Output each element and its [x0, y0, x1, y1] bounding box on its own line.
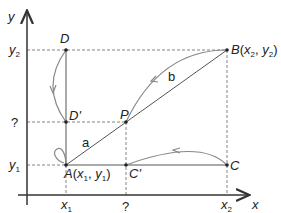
- point-B-label: B(x2, y2): [231, 43, 278, 59]
- segment-a-label: a: [82, 136, 89, 149]
- y-axis-label: y: [8, 10, 15, 23]
- y-tick-unknown: ?: [11, 116, 18, 129]
- x-tick-x1: x1: [61, 198, 72, 213]
- point-C-label: C: [230, 159, 239, 172]
- y-tick-y2: y2: [9, 43, 20, 59]
- x-tick-unknown: ?: [122, 200, 129, 213]
- point-D-prime-label: D': [69, 109, 81, 122]
- x-axis-label: x: [252, 198, 259, 211]
- y-tick-y1: y1: [9, 158, 20, 174]
- x-tick-x2: x2: [221, 198, 232, 213]
- solid-segments: [66, 50, 227, 165]
- point-C-prime-label: C': [129, 167, 141, 180]
- point-A-label: A(x1, y1): [64, 167, 111, 183]
- diagram-canvas: [0, 0, 281, 213]
- point-P-label: P: [120, 108, 129, 121]
- point-D-label: D: [60, 32, 69, 45]
- segment-b-label: b: [168, 70, 175, 83]
